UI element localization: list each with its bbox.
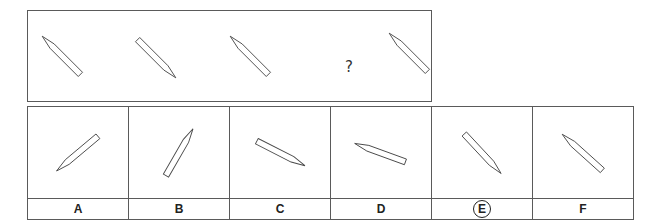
option-a[interactable]: A: [28, 107, 129, 219]
pencil-icon: [250, 123, 310, 183]
option-f[interactable]: F: [533, 107, 633, 219]
option-image: [230, 107, 330, 199]
selected-answer-circle: E: [473, 200, 491, 218]
pencil-icon: [553, 123, 613, 183]
option-label-selected: E: [432, 199, 532, 219]
option-label: D: [331, 199, 431, 219]
option-label: B: [129, 199, 229, 219]
pencil-icon: [149, 123, 209, 183]
option-label: F: [533, 199, 633, 219]
pencil-icon: [126, 28, 186, 88]
option-label: C: [230, 199, 330, 219]
pencil-icon: [351, 123, 411, 183]
pencil-icon: [452, 123, 512, 183]
question-sequence-box: ?: [27, 10, 432, 102]
option-image: [432, 107, 532, 199]
option-b[interactable]: B: [129, 107, 230, 219]
option-d[interactable]: D: [331, 107, 432, 219]
answer-options-grid: A B C D E: [27, 106, 634, 220]
option-image: [331, 107, 431, 199]
missing-item-placeholder: ?: [345, 58, 353, 76]
pencil-icon: [220, 26, 280, 86]
pencil-icon: [379, 23, 439, 83]
option-image: [533, 107, 633, 199]
option-image: [129, 107, 229, 199]
pencil-icon: [48, 123, 108, 183]
option-image: [28, 107, 128, 199]
option-label: A: [28, 199, 128, 219]
option-e[interactable]: E: [432, 107, 533, 219]
option-c[interactable]: C: [230, 107, 331, 219]
pencil-icon: [32, 26, 92, 86]
